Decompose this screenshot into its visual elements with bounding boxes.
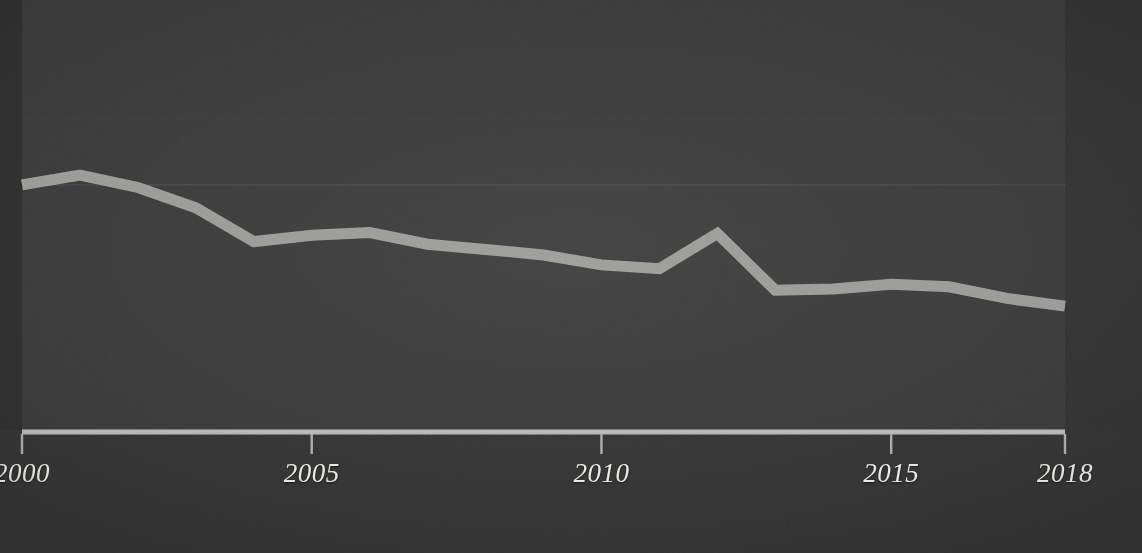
line-chart <box>0 0 1142 553</box>
data-series-group <box>22 175 1065 306</box>
x-axis-tick-label-2018: 2018 <box>1037 458 1093 489</box>
x-axis-tick-label-2015: 2015 <box>863 458 919 489</box>
x-axis-tick-label-2005: 2005 <box>284 458 340 489</box>
gridlines <box>22 118 1065 185</box>
series-line-1 <box>22 175 1065 306</box>
x-axis-tick-label-2010: 2010 <box>573 458 629 489</box>
x-axis-tick-label-2000: 2000 <box>0 458 50 489</box>
chart-screenshot: 20002005201020152018 <box>0 0 1142 553</box>
x-axis-ticks <box>22 434 1065 454</box>
